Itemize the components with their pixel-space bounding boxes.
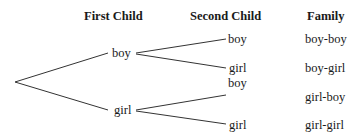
first-child-girl: girl: [114, 103, 131, 117]
branch-girl-boy: [136, 95, 226, 110]
second-child-girl-2: girl: [229, 118, 246, 132]
family-boy-boy: boy-boy: [305, 32, 347, 46]
second-child-girl-1: girl: [229, 61, 246, 75]
family-boy-girl: boy-girl: [305, 61, 345, 75]
second-child-boy-2: boy: [228, 76, 247, 90]
header-family: Family: [307, 9, 345, 24]
branch-root-girl: [15, 82, 108, 110]
family-girl-boy: girl-boy: [305, 90, 345, 104]
branch-root-boy: [15, 53, 108, 82]
header-second-child: Second Child: [190, 9, 261, 24]
branch-girl-girl: [136, 111, 226, 124]
second-child-boy-1: boy: [228, 32, 247, 46]
branch-boy-boy: [136, 39, 226, 53]
header-first-child: First Child: [84, 9, 143, 24]
family-girl-girl: girl-girl: [305, 118, 344, 132]
tree-branches: [0, 0, 356, 137]
branch-boy-girl: [136, 54, 226, 68]
first-child-boy: boy: [112, 46, 131, 60]
